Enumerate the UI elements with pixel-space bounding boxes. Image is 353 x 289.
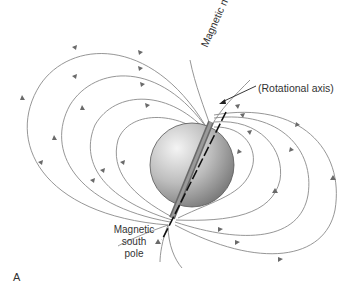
rotational-axis-label: (Rotational axis) [258, 82, 334, 94]
field-diagram-svg [0, 0, 353, 289]
south-pole-line3: pole [104, 248, 164, 260]
south-pole-line2: south [104, 236, 164, 248]
axis-pointer [219, 86, 256, 104]
south-pole-line1: Magnetic [104, 224, 164, 236]
panel-label: A [13, 271, 20, 283]
south-pole-label: Magnetic south pole [104, 224, 164, 260]
